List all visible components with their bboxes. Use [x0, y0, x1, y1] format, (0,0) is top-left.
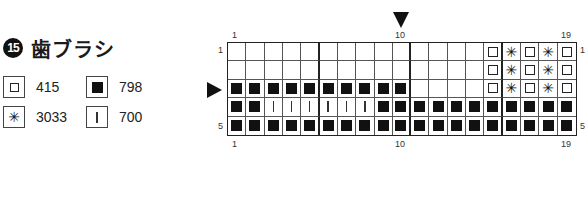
filled-square-icon — [378, 120, 389, 131]
asterisk-icon: ✳ — [8, 110, 20, 124]
grid-cell — [484, 117, 502, 135]
pattern-number-badge: 15 — [3, 38, 23, 58]
filled-square-icon — [487, 101, 498, 112]
empty-square-icon — [488, 47, 498, 57]
grid-cell — [429, 43, 447, 61]
grid-cell — [429, 117, 447, 135]
grid-cell — [320, 61, 338, 79]
grid-cell — [411, 98, 429, 116]
grid-cell — [338, 61, 356, 79]
grid-cell — [320, 43, 338, 61]
legend-code: 3033 — [36, 109, 67, 125]
empty-square-icon — [525, 83, 535, 93]
grid-cell — [246, 117, 264, 135]
pattern-title: 15 歯ブラシ — [3, 36, 115, 60]
filled-square-icon — [323, 83, 334, 94]
empty-square-icon — [488, 65, 498, 75]
grid-cell — [484, 80, 502, 98]
asterisk-icon: ✳ — [506, 63, 518, 77]
grid-cell — [429, 80, 447, 98]
grid-cell — [301, 61, 319, 79]
top-col-label-center: 10 — [395, 30, 405, 40]
filled-square-icon — [561, 120, 572, 131]
grid-cell — [283, 43, 301, 61]
grid-cell — [265, 80, 283, 98]
grid-cell — [393, 61, 411, 79]
filled-square-icon — [487, 120, 498, 131]
filled-square-icon — [341, 120, 352, 131]
grid-cell — [503, 98, 521, 116]
filled-square-icon — [524, 101, 535, 112]
filled-square-icon — [395, 120, 406, 131]
empty-square-icon — [525, 47, 535, 57]
grid-cell — [356, 117, 374, 135]
asterisk-icon: ✳ — [542, 45, 554, 59]
grid-cell — [521, 43, 539, 61]
grid-cell — [338, 43, 356, 61]
empty-square-icon — [562, 47, 572, 57]
grid-cell — [411, 80, 429, 98]
grid-cell — [411, 117, 429, 135]
pattern-name: 歯ブラシ — [31, 34, 115, 63]
grid-cell — [411, 61, 429, 79]
grid-cell — [375, 43, 393, 61]
filled-square-icon — [395, 101, 406, 112]
grid-cell — [283, 80, 301, 98]
grid-cell — [338, 98, 356, 116]
filled-square-icon — [231, 83, 242, 94]
grid-cell — [448, 98, 466, 116]
vertical-bar-icon — [309, 101, 311, 112]
filled-square-icon — [506, 120, 517, 131]
grid-cell — [228, 61, 246, 79]
filled-square-icon — [286, 120, 297, 131]
filled-square-icon — [249, 101, 260, 112]
filled-square-icon — [92, 82, 103, 93]
filled-square-icon — [286, 83, 297, 94]
grid-cell — [466, 80, 484, 98]
center-column-marker-icon — [393, 12, 409, 28]
grid-cell: ✳ — [503, 43, 521, 61]
filled-square-icon — [378, 101, 389, 112]
grid-cell — [375, 80, 393, 98]
grid-cell — [429, 61, 447, 79]
grid-cell — [320, 117, 338, 135]
vertical-bar-icon — [364, 101, 366, 112]
empty-square-icon — [525, 65, 535, 75]
vertical-bar-icon — [346, 101, 348, 112]
bottom-col-label-center: 10 — [395, 139, 405, 149]
filled-square-icon — [469, 101, 480, 112]
grid-cell — [411, 43, 429, 61]
grid-cell — [228, 98, 246, 116]
legend-item-3033: ✳ 3033 — [3, 105, 67, 129]
filled-square-icon — [414, 120, 425, 131]
grid-cell — [503, 117, 521, 135]
grid-cell — [375, 117, 393, 135]
vertical-bar-icon — [291, 101, 293, 112]
grid-cell — [356, 61, 374, 79]
vertical-bar-icon — [273, 101, 275, 112]
legend-code: 415 — [36, 79, 59, 95]
grid-cell — [356, 98, 374, 116]
filled-square-icon — [231, 120, 242, 131]
grid-cell — [228, 43, 246, 61]
legend-swatch: ✳ — [3, 106, 25, 128]
grid-cell — [338, 80, 356, 98]
grid-cell — [320, 80, 338, 98]
grid-cell — [539, 98, 557, 116]
grid-cell — [558, 43, 576, 61]
grid-cell — [265, 117, 283, 135]
grid-cell — [356, 80, 374, 98]
grid-cell — [301, 43, 319, 61]
right-row-label-first: 1 — [580, 45, 585, 55]
grid-cell — [521, 117, 539, 135]
filled-square-icon — [451, 120, 462, 131]
vertical-bar-icon — [96, 112, 98, 123]
grid-cell — [393, 98, 411, 116]
filled-square-icon — [304, 120, 315, 131]
grid-cell — [301, 80, 319, 98]
filled-square-icon — [231, 101, 242, 112]
legend-swatch — [3, 76, 25, 98]
right-row-label-last: 5 — [580, 121, 585, 131]
legend-swatch — [86, 76, 108, 98]
grid-cell — [484, 43, 502, 61]
